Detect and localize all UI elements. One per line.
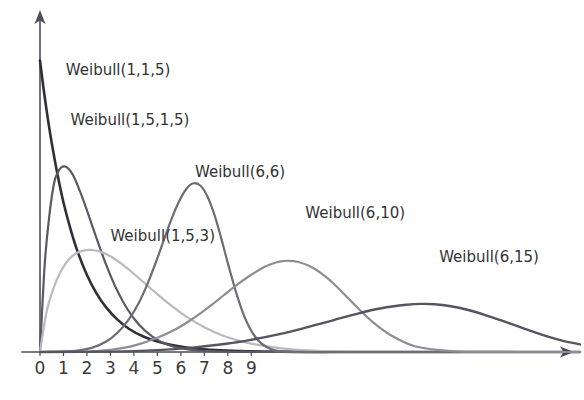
curve-weibull-6-10: [40, 261, 580, 352]
x-tick-label: 4: [128, 358, 139, 378]
x-tick-label: 5: [152, 358, 163, 378]
series-label-weibull-1-1-5: Weibull(1,1,5): [66, 61, 171, 79]
x-tick-label: 9: [246, 358, 257, 378]
series-label-weibull-6-6: Weibull(6,6): [195, 163, 285, 181]
x-tick-label: 0: [35, 358, 46, 378]
x-tick-label: 3: [105, 358, 116, 378]
x-tick-label: 1: [58, 358, 69, 378]
series-label-weibull-1-5-3: Weibull(1,5,3): [110, 227, 215, 245]
weibull-density-chart: 0123456789 Weibull(1,1,5)Weibull(1,5,1,5…: [0, 0, 584, 400]
chart-plot-area: 0123456789 Weibull(1,1,5)Weibull(1,5,1,5…: [0, 0, 584, 400]
series-label-weibull-1-5-1-5: Weibull(1,5,1,5): [71, 111, 190, 129]
x-tick-label: 8: [222, 358, 233, 378]
x-tick-label: 6: [175, 358, 186, 378]
x-tick-label: 2: [82, 358, 93, 378]
series-label-weibull-6-15: Weibull(6,15): [439, 248, 539, 266]
series-annotations-group: Weibull(1,1,5)Weibull(1,5,1,5)Weibull(6,…: [66, 61, 539, 266]
x-tick-label: 7: [199, 358, 210, 378]
x-axis-ticks-group: 0123456789: [35, 352, 257, 378]
series-label-weibull-6-10: Weibull(6,10): [305, 204, 405, 222]
